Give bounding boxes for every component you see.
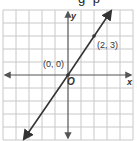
origin-label: O	[67, 76, 75, 87]
x-axis-label: x	[127, 77, 132, 87]
point-2-3	[92, 34, 96, 38]
coordinate-graph	[0, 0, 137, 141]
point-label-origin: (0, 0)	[43, 59, 64, 69]
point-label-2-3: (2, 3)	[97, 40, 118, 50]
graph-line	[24, 75, 68, 139]
y-axis-label: y	[71, 11, 76, 21]
